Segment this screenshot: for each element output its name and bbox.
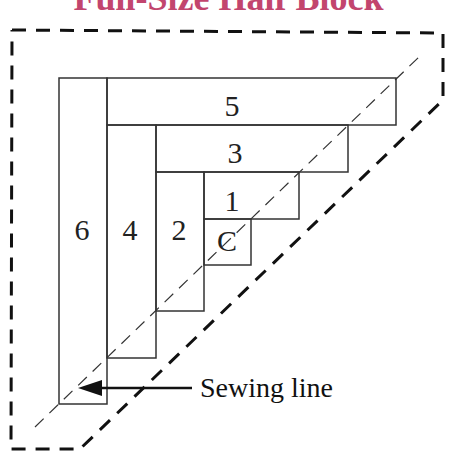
- piece-label-c: C: [217, 224, 237, 257]
- piece-label-2: 2: [172, 213, 187, 246]
- log-cabin-half-block-diagram: C123456 Sewing line: [0, 0, 457, 465]
- piece-label-5: 5: [225, 89, 240, 122]
- diagram-canvas: Full-Size Half Block C123456 Sewing line: [0, 0, 457, 465]
- piece-5: [107, 78, 396, 125]
- piece-label-3: 3: [228, 136, 243, 169]
- piece-label-6: 6: [75, 213, 90, 246]
- piece-label-4: 4: [123, 213, 138, 246]
- piece-1: [204, 172, 299, 219]
- sewing-line-label: Sewing line: [200, 372, 333, 403]
- piece-label-1: 1: [225, 184, 240, 217]
- piece-3: [156, 125, 348, 172]
